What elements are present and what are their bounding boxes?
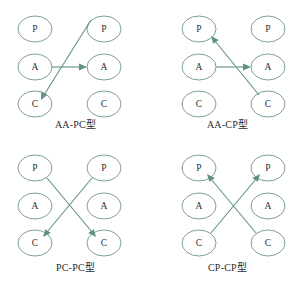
panel-aa-pc-graph: P A C P A C bbox=[0, 0, 151, 118]
node-right-a-label: A bbox=[265, 201, 272, 211]
node-left-p-label: P bbox=[32, 24, 37, 34]
node-left-p-label: P bbox=[196, 163, 201, 173]
node-left-p-label: P bbox=[196, 24, 201, 34]
node-left-a-label: A bbox=[196, 62, 203, 72]
panel-aa-cp-graph: P A C P A C bbox=[152, 0, 303, 118]
panel-cp-cp-caption: CP-CP型 bbox=[152, 259, 303, 274]
node-left-a-label: A bbox=[196, 201, 203, 211]
node-left-c-label: C bbox=[32, 99, 38, 109]
node-left-p-label: P bbox=[32, 163, 37, 173]
panel-pc-pc-graph: P A C P A C bbox=[0, 143, 151, 261]
node-left-c-label: C bbox=[196, 238, 202, 248]
node-right-a-label: A bbox=[101, 62, 108, 72]
node-left-c-label: C bbox=[32, 238, 38, 248]
panel-cp-cp-graph: P A C P A C bbox=[152, 143, 303, 261]
node-right-a-label: A bbox=[265, 62, 272, 72]
node-right-a-label: A bbox=[101, 201, 108, 211]
node-right-c-label: C bbox=[101, 238, 107, 248]
node-left-a-label: A bbox=[32, 201, 39, 211]
node-left-a-label: A bbox=[32, 62, 39, 72]
node-right-c-label: C bbox=[265, 238, 271, 248]
panel-pc-pc: P A C P A C PC-PC型 bbox=[0, 143, 151, 285]
node-right-p-label: P bbox=[101, 24, 106, 34]
node-left-c-label: C bbox=[196, 99, 202, 109]
node-right-c-label: C bbox=[265, 99, 271, 109]
transaction-analysis-diagram: P A C P A C AA-PC型 P A C P bbox=[0, 0, 303, 285]
node-right-p-label: P bbox=[265, 163, 270, 173]
panel-cp-cp: P A C P A C CP-CP型 bbox=[152, 143, 303, 285]
panel-aa-cp-caption: AA-CP型 bbox=[152, 116, 303, 131]
panel-aa-pc-caption: AA-PC型 bbox=[0, 116, 151, 131]
node-right-p-label: P bbox=[265, 24, 270, 34]
edge-left-a-to-right-a-arrowhead bbox=[79, 64, 87, 71]
edge-right-c-to-left-p-arrowhead bbox=[211, 36, 219, 44]
node-right-c-label: C bbox=[101, 99, 107, 109]
node-right-p-label: P bbox=[101, 163, 106, 173]
panel-aa-pc: P A C P A C AA-PC型 bbox=[0, 0, 151, 142]
edge-left-a-to-right-a-arrowhead bbox=[243, 64, 251, 71]
panel-aa-cp: P A C P A C AA-CP型 bbox=[152, 0, 303, 142]
panel-pc-pc-caption: PC-PC型 bbox=[0, 259, 151, 274]
